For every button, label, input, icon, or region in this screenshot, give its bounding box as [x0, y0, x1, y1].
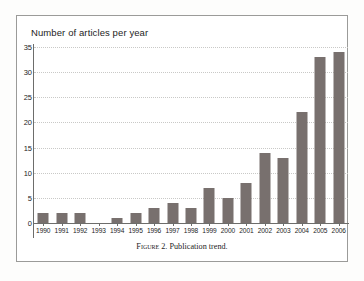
bar-slot	[200, 47, 218, 223]
x-axis-tick-label: 1996	[147, 227, 161, 234]
bar[interactable]	[241, 183, 252, 223]
x-axis-tick	[43, 223, 44, 226]
x-axis-tick	[173, 223, 174, 226]
x-axis-tick-label: 1992	[73, 227, 87, 234]
x-axis-tick	[265, 223, 266, 226]
x-axis-tick	[80, 223, 81, 226]
bar-slot	[237, 47, 255, 223]
x-axis-tick-label: 1995	[128, 227, 142, 234]
bar-slot	[274, 47, 292, 223]
figure-frame: Number of articles per year 051015202530…	[16, 15, 348, 262]
figure-caption-text: Publication trend.	[169, 242, 227, 251]
y-axis-tick-labels: 05101520253035	[17, 16, 32, 263]
bar-slot	[52, 47, 70, 223]
bar-slot	[71, 47, 89, 223]
y-axis-tick-label: 5	[17, 193, 32, 202]
figure-caption: Figure 2. Publication trend.	[17, 242, 347, 251]
x-axis-tick	[320, 223, 321, 226]
x-axis-tick-label: 2002	[258, 227, 272, 234]
bar-slot	[256, 47, 274, 223]
x-axis-tick	[191, 223, 192, 226]
bar-slot	[163, 47, 181, 223]
bar[interactable]	[222, 198, 233, 223]
bar[interactable]	[130, 213, 141, 223]
x-axis-tick-label: 2004	[295, 227, 309, 234]
bar[interactable]	[333, 52, 344, 223]
x-axis-tick-label: 2000	[221, 227, 235, 234]
figure-caption-label: Figure 2.	[136, 242, 167, 251]
page-background: Number of articles per year 051015202530…	[0, 0, 364, 281]
y-axis-tick-label: 25	[17, 93, 32, 102]
x-axis-tick-label: 2003	[276, 227, 290, 234]
bar[interactable]	[315, 57, 326, 223]
x-axis-tick	[228, 223, 229, 226]
bar[interactable]	[296, 112, 307, 223]
y-axis-tick-label: 15	[17, 143, 32, 152]
y-axis-tick-label: 10	[17, 168, 32, 177]
bar-slot	[34, 47, 52, 223]
bar-slot	[126, 47, 144, 223]
x-axis-tick-label: 1991	[55, 227, 69, 234]
bar[interactable]	[38, 213, 49, 223]
x-axis-tick-labels: 1990199119921993199419951996199719981999…	[34, 227, 348, 239]
x-axis-tick-label: 1998	[184, 227, 198, 234]
bar[interactable]	[204, 188, 215, 223]
bar-slot	[219, 47, 237, 223]
bar[interactable]	[185, 208, 196, 223]
bar[interactable]	[149, 208, 160, 223]
bar[interactable]	[259, 153, 270, 223]
x-axis-tick-label: 2001	[239, 227, 253, 234]
bar[interactable]	[56, 213, 67, 223]
x-axis-tick-label: 1993	[92, 227, 106, 234]
x-axis-tick-label: 1994	[110, 227, 124, 234]
y-axis-tick-label: 35	[17, 43, 32, 52]
x-axis-tick	[209, 223, 210, 226]
x-axis-tick-label: 1997	[165, 227, 179, 234]
y-axis-tick-label: 30	[17, 68, 32, 77]
x-axis-tick-label: 2006	[332, 227, 346, 234]
bar-slot	[89, 47, 107, 223]
bar-slot	[145, 47, 163, 223]
bar[interactable]	[167, 203, 178, 223]
chart-plot: 05101520253035 1990199119921993199419951…	[17, 16, 349, 263]
bar[interactable]	[75, 213, 86, 223]
x-axis-tick	[154, 223, 155, 226]
x-axis-tick	[62, 223, 63, 226]
x-axis-tick	[136, 223, 137, 226]
x-axis-tick-label: 1999	[202, 227, 216, 234]
x-axis-tick	[302, 223, 303, 226]
x-axis-tick	[339, 223, 340, 226]
bars-layer	[34, 47, 348, 223]
bar[interactable]	[278, 158, 289, 223]
bar-slot	[330, 47, 348, 223]
bar-slot	[311, 47, 329, 223]
x-axis-tick	[246, 223, 247, 226]
y-axis-tick-label: 20	[17, 118, 32, 127]
x-axis-tick-label: 2005	[313, 227, 327, 234]
x-axis-tick	[283, 223, 284, 226]
bar-slot	[108, 47, 126, 223]
y-axis-tick-label: 0	[17, 219, 32, 228]
x-axis-tick	[117, 223, 118, 226]
bar-slot	[182, 47, 200, 223]
x-axis-tick	[99, 223, 100, 226]
bar-slot	[293, 47, 311, 223]
x-axis-tick-label: 1990	[36, 227, 50, 234]
